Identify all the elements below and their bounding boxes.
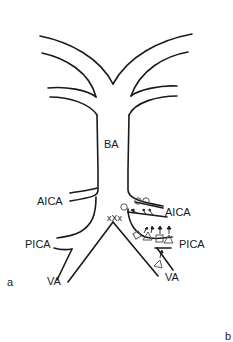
- label-right-va: VA: [165, 272, 179, 283]
- label-marker-xxx: xXx: [107, 214, 122, 223]
- right-sca-lower: [129, 96, 177, 115]
- label-left-aica: AICA: [37, 196, 63, 207]
- left-pica-lower: [54, 248, 72, 250]
- label-right-pica: PICA: [179, 239, 205, 250]
- triangle-marker: [164, 235, 173, 243]
- panel-label-a: a: [7, 277, 13, 288]
- left-pca-lower: [42, 53, 96, 97]
- circle-marker: [121, 204, 127, 210]
- right-va-outer: [157, 248, 173, 270]
- right-pca-lower: [131, 52, 188, 96]
- vessel-diagram: [0, 0, 233, 342]
- left-aica-upper: [70, 188, 97, 193]
- basilar-right-wall: [128, 115, 163, 206]
- left-sca-upper: [48, 87, 96, 97]
- label-left-pica: PICA: [25, 239, 51, 250]
- right-pca-upper: [113, 34, 192, 84]
- left-va-inner: [68, 222, 113, 282]
- left-pca-upper: [40, 36, 113, 84]
- label-ba: BA: [104, 139, 119, 150]
- label-right-aica: AICA: [165, 207, 191, 218]
- label-left-va: VA: [47, 276, 61, 287]
- basilar-left-wall: [70, 115, 98, 201]
- panel-label-b: b: [225, 331, 231, 342]
- triangle-marker: [154, 260, 162, 268]
- left-sca-lower: [50, 97, 97, 115]
- right-sca-upper: [131, 86, 177, 96]
